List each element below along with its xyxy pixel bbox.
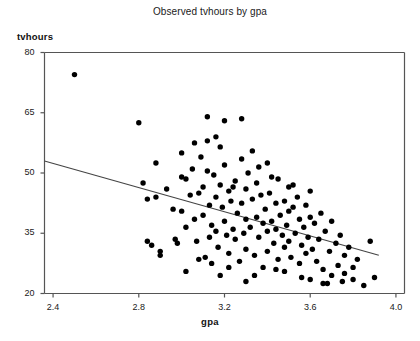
data-point bbox=[323, 229, 328, 234]
data-point bbox=[218, 144, 223, 149]
data-point bbox=[280, 233, 285, 238]
data-point bbox=[207, 235, 212, 240]
data-point bbox=[263, 206, 268, 211]
data-point bbox=[282, 198, 287, 203]
data-point bbox=[183, 225, 188, 230]
data-point bbox=[329, 219, 334, 224]
data-point bbox=[245, 170, 250, 175]
data-point bbox=[318, 210, 323, 215]
data-point bbox=[239, 116, 244, 121]
data-point bbox=[316, 237, 321, 242]
data-point bbox=[205, 138, 210, 143]
data-point bbox=[183, 269, 188, 274]
data-point bbox=[361, 283, 366, 288]
data-point bbox=[153, 160, 158, 165]
data-point bbox=[200, 184, 205, 189]
data-point bbox=[265, 229, 270, 234]
data-point bbox=[213, 229, 218, 234]
data-point bbox=[226, 251, 231, 256]
data-point bbox=[342, 271, 347, 276]
data-point bbox=[153, 194, 158, 199]
data-point bbox=[198, 154, 203, 159]
data-point bbox=[350, 265, 355, 270]
data-point bbox=[327, 249, 332, 254]
data-point bbox=[308, 188, 313, 193]
data-point bbox=[235, 210, 240, 215]
data-point bbox=[269, 219, 274, 224]
data-point bbox=[179, 208, 184, 213]
data-point bbox=[335, 263, 340, 268]
data-point bbox=[260, 221, 265, 226]
data-point bbox=[297, 216, 302, 221]
scatter-plot-figure: Observed tvhours by gpa tvhours 20355065… bbox=[0, 0, 420, 341]
data-point bbox=[230, 227, 235, 232]
data-point bbox=[282, 269, 287, 274]
data-point bbox=[196, 257, 201, 262]
data-points bbox=[72, 72, 377, 288]
data-point bbox=[271, 241, 276, 246]
data-point bbox=[297, 261, 302, 266]
x-axis-title: gpa bbox=[0, 316, 420, 327]
data-point bbox=[215, 245, 220, 250]
data-point bbox=[260, 265, 265, 270]
data-point bbox=[72, 72, 77, 77]
data-point bbox=[308, 277, 313, 282]
data-point bbox=[175, 241, 180, 246]
data-point bbox=[170, 206, 175, 211]
data-point bbox=[209, 223, 214, 228]
data-point bbox=[301, 225, 306, 230]
data-point bbox=[248, 225, 253, 230]
data-point bbox=[265, 249, 270, 254]
data-point bbox=[250, 196, 255, 201]
data-point bbox=[372, 275, 377, 280]
data-point bbox=[338, 233, 343, 238]
data-point bbox=[188, 192, 193, 197]
data-point bbox=[233, 178, 238, 183]
y-tick-label: 80 bbox=[9, 47, 35, 57]
data-point bbox=[269, 174, 274, 179]
data-point bbox=[355, 257, 360, 262]
data-point bbox=[136, 120, 141, 125]
data-point bbox=[282, 245, 287, 250]
data-point bbox=[256, 164, 261, 169]
data-point bbox=[222, 219, 227, 224]
data-point bbox=[325, 281, 330, 286]
data-point bbox=[303, 251, 308, 256]
data-point bbox=[164, 186, 169, 191]
data-point bbox=[203, 255, 208, 260]
data-point bbox=[196, 190, 201, 195]
data-point bbox=[290, 182, 295, 187]
data-point bbox=[275, 176, 280, 181]
data-point bbox=[226, 188, 231, 193]
data-point bbox=[218, 182, 223, 187]
data-point bbox=[305, 235, 310, 240]
data-point bbox=[194, 239, 199, 244]
data-point bbox=[237, 259, 242, 264]
data-point bbox=[273, 200, 278, 205]
data-point bbox=[273, 227, 278, 232]
data-point bbox=[179, 150, 184, 155]
data-point bbox=[207, 202, 212, 207]
data-point bbox=[213, 194, 218, 199]
data-point bbox=[320, 267, 325, 272]
data-point bbox=[288, 255, 293, 260]
data-point bbox=[256, 235, 261, 240]
data-point bbox=[145, 239, 150, 244]
data-point bbox=[250, 148, 255, 153]
data-point bbox=[310, 247, 315, 252]
data-point bbox=[205, 114, 210, 119]
x-tick-label: 3.2 bbox=[208, 302, 242, 312]
data-point bbox=[299, 275, 304, 280]
plot-area bbox=[0, 0, 420, 341]
data-point bbox=[290, 204, 295, 209]
data-point bbox=[220, 204, 225, 209]
data-point bbox=[312, 221, 317, 226]
x-tick-label: 2.8 bbox=[122, 302, 156, 312]
data-point bbox=[252, 273, 257, 278]
data-point bbox=[213, 134, 218, 139]
data-point bbox=[241, 231, 246, 236]
data-point bbox=[222, 118, 227, 123]
data-point bbox=[239, 200, 244, 205]
data-point bbox=[192, 140, 197, 145]
data-point bbox=[211, 172, 216, 177]
